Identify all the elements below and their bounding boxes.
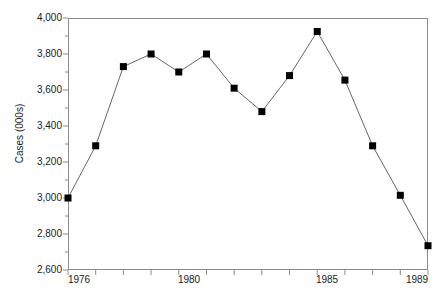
data-point-marker: [369, 142, 376, 149]
data-point-marker: [397, 192, 404, 199]
data-point-marker: [314, 28, 321, 35]
y-axis-minor-ticks: [65, 36, 68, 252]
data-point-marker: [203, 51, 210, 58]
data-point-marker: [286, 72, 293, 79]
line-chart: 4,000 3,800 3,600 3,400 3,200 3,000 2,80…: [0, 0, 448, 304]
data-point-marker: [92, 142, 99, 149]
x-axis-ticks: [68, 270, 428, 275]
data-markers: [65, 28, 432, 249]
data-point-marker: [231, 85, 238, 92]
plot-svg: [0, 0, 448, 304]
data-point-marker: [341, 77, 348, 84]
data-point-marker: [258, 108, 265, 115]
data-point-marker: [175, 69, 182, 76]
data-point-marker: [65, 195, 72, 202]
data-point-marker: [425, 242, 432, 249]
data-point-marker: [148, 51, 155, 58]
data-point-marker: [120, 63, 127, 70]
